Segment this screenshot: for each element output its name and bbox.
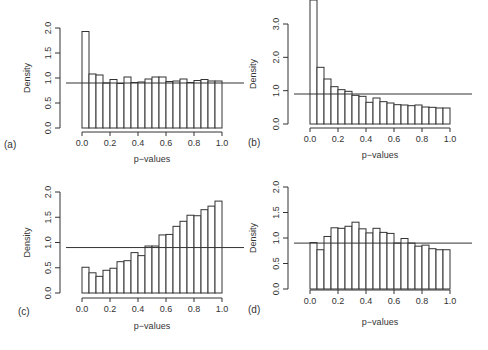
panel-label: (d) [248,304,260,315]
x-tick-label: 0.4 [132,304,145,314]
x-tick-label: 0.8 [416,134,429,144]
histogram-bar [338,90,345,124]
histogram-bars [310,222,450,289]
x-tick-label: 0.0 [304,134,317,144]
histogram-bar [180,79,187,128]
y-tick-label: 1.0 [271,84,281,97]
y-tick-label: 2.0 [43,186,53,199]
x-axis: 0.00.20.40.60.81.0 [304,128,457,144]
x-axis-label: p−values [362,150,399,160]
histogram-bar [345,226,352,289]
histogram-bar [387,233,394,289]
histogram-bar [415,246,422,289]
y-tick-label: 0.0 [271,283,281,296]
histogram-bar [352,222,359,289]
histogram-bars [82,201,222,293]
y-tick-label: 0.5 [271,257,281,270]
x-tick-label: 1.0 [216,304,229,314]
x-tick-label: 1.0 [444,296,457,306]
y-tick-label: 3.0 [271,18,281,31]
x-tick-label: 1.0 [216,138,229,148]
histogram-bar [173,81,180,128]
histogram-bar [117,262,124,293]
y-tick-label: 0.5 [43,261,53,274]
histogram-d-svg: 0.00.51.01.52.0Density0.00.20.40.60.81.0… [244,175,488,350]
histogram-a-svg: 0.00.51.01.52.0Density0.00.20.40.60.81.0… [0,0,244,175]
histogram-bar [422,245,429,289]
histogram-bar [401,239,408,289]
x-axis: 0.00.20.40.60.81.0 [76,132,229,148]
panel-label: (b) [248,137,260,148]
histogram-bar [138,82,145,128]
x-axis: 0.00.20.40.60.81.0 [304,290,457,306]
histogram-bar [138,256,145,293]
histogram-bar [89,74,96,128]
histogram-bar [331,228,338,289]
histogram-bar [152,77,159,128]
y-tick-label: 2.0 [271,51,281,64]
histogram-bar [110,80,117,129]
x-axis-label: p−values [362,317,399,327]
histogram-bar [310,0,317,124]
histogram-c-svg: 0.00.51.01.52.0Density0.00.20.40.60.81.0… [0,175,244,350]
histogram-bars [310,0,450,124]
y-tick-label: 0.5 [43,97,53,110]
histogram-panel-c: 0.00.51.01.52.0Density0.00.20.40.60.81.0… [0,175,244,350]
histogram-bar [317,250,324,289]
x-tick-label: 0.0 [76,304,89,314]
histogram-bar [443,250,450,289]
histogram-bar [366,102,373,124]
histogram-bar [366,233,373,289]
histogram-bar [187,215,194,293]
histogram-bar [429,249,436,289]
histogram-bar [103,83,110,128]
histogram-bar [89,273,96,293]
histogram-bar [215,81,222,128]
histogram-bar [443,108,450,124]
x-tick-label: 0.6 [160,138,173,148]
y-tick-label: 1.0 [271,232,281,245]
y-axis: 0.01.02.03.0 [271,18,288,131]
y-tick-label: 0.0 [43,122,53,135]
histogram-panel-d: 0.00.51.01.52.0Density0.00.20.40.60.81.0… [244,175,488,350]
histogram-bar [373,98,380,124]
y-tick-label: 1.0 [43,72,53,85]
histogram-bar [324,236,331,289]
histogram-bar [394,105,401,124]
histogram-bar [166,234,173,293]
histogram-bar [201,80,208,129]
histogram-bar [124,77,131,128]
y-axis: 0.00.51.01.52.0 [43,186,60,300]
histogram-bar [152,246,159,293]
histogram-bar [159,77,166,128]
x-tick-label: 0.0 [76,138,89,148]
x-tick-label: 0.8 [188,304,201,314]
histogram-bar [180,221,187,293]
histogram-bar [401,105,408,124]
y-tick-label: 0.0 [271,118,281,131]
histogram-bar [408,243,415,289]
histogram-panel-b: 0.01.02.03.0Density0.00.20.40.60.81.0p−v… [244,0,488,175]
x-tick-label: 0.8 [188,138,201,148]
histogram-panel-a: 0.00.51.01.52.0Density0.00.20.40.60.81.0… [0,0,244,175]
x-tick-label: 0.6 [388,296,401,306]
histogram-bar [82,267,89,293]
x-tick-label: 1.0 [444,134,457,144]
panel-label: (c) [18,306,30,317]
x-axis-label: p−values [134,321,171,331]
y-axis-label: Density [248,58,258,89]
histogram-bar [359,96,366,124]
y-tick-label: 1.5 [271,206,281,219]
histogram-bar [324,79,331,124]
x-tick-label: 0.6 [160,304,173,314]
histogram-bar [187,83,194,129]
x-tick-label: 0.2 [104,138,117,148]
histogram-bar [422,107,429,124]
histogram-bar [96,276,103,293]
histogram-bar [145,246,152,293]
y-axis: 0.00.51.01.52.0 [271,181,288,296]
histogram-bar [166,82,173,129]
histogram-bar [117,84,124,129]
x-tick-label: 0.2 [332,134,345,144]
histogram-bar [345,91,352,124]
